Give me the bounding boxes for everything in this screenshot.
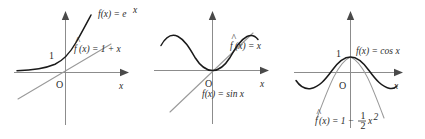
- function-label-exponential: f(x) = e x: [98, 5, 138, 21]
- function-label-cosine: f(x) = cos x: [356, 46, 400, 57]
- x-axis-label: x: [259, 79, 265, 89]
- x-axis-arrowhead: [394, 69, 403, 76]
- x-axis-label: x: [393, 81, 399, 91]
- approximation-label-tail: x: [367, 116, 373, 126]
- origin-label: O: [56, 79, 63, 90]
- function-label-sine: f(x) = sin x: [202, 89, 245, 100]
- y-tick-label-1: 1: [336, 48, 341, 59]
- origin-label: O: [339, 80, 346, 91]
- y-axis-arrowhead: [62, 11, 69, 20]
- panel-cosine-plot: 1 O x f(x) = cos x f ^ (x) = 1 − 1 2 x 2: [284, 0, 425, 139]
- approximation-label-text: (x) = 1 −: [319, 116, 354, 127]
- function-label-exponent: x: [132, 5, 138, 15]
- panel-exponential-plot: 1 O x f(x) = e x f ^ (x) = 1 + x: [0, 0, 142, 139]
- y-tick-label-1: 1: [49, 50, 54, 61]
- panel-sine-plot: O x f ^ (x) = x f(x) = sin x: [142, 0, 284, 139]
- panel-cosine: 1 O x f(x) = cos x f ^ (x) = 1 − 1 2 x 2: [284, 0, 425, 139]
- approximation-label-text: (x) = 1 + x: [79, 44, 122, 55]
- fraction-denominator: 2: [361, 120, 366, 131]
- x-axis-label: x: [118, 81, 124, 91]
- panel-sine: O x f ^ (x) = x f(x) = sin x: [142, 0, 284, 139]
- approximation-figure: 1 O x f(x) = e x f ^ (x) = 1 + x: [0, 0, 425, 139]
- y-axis-arrowhead: [209, 11, 216, 20]
- approximation-label-cosine: f ^ (x) = 1 − 1 2 x 2: [315, 107, 379, 131]
- x-axis-arrowhead: [260, 67, 269, 74]
- panel-exponential: 1 O x f(x) = e x f ^ (x) = 1 + x: [0, 0, 142, 139]
- approximation-label-tail-exponent: 2: [374, 112, 379, 122]
- approximation-label-text: (x) = x: [235, 41, 262, 52]
- approximation-label-exponential: f ^ (x) = 1 + x: [74, 35, 122, 55]
- x-axis-arrowhead: [120, 69, 129, 76]
- y-axis-arrowhead: [347, 11, 354, 20]
- approximation-label-sine: f ^ (x) = x: [230, 32, 262, 52]
- origin-label: O: [205, 78, 212, 89]
- function-label-text: f(x) = e: [98, 9, 127, 20]
